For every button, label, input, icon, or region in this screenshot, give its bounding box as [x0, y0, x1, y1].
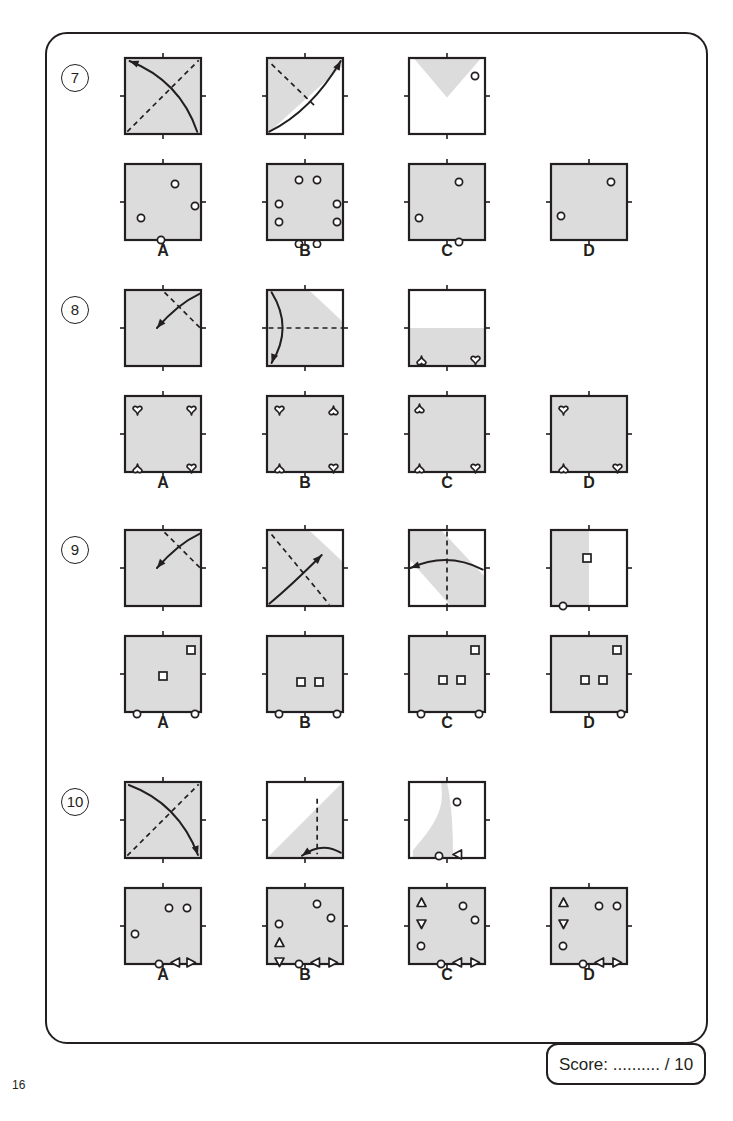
answer-label-9-B[interactable]: B — [259, 714, 351, 732]
answer-label-9-D[interactable]: D — [543, 714, 635, 732]
answer-diagram-10-C[interactable] — [401, 880, 493, 972]
answer-label-10-B[interactable]: B — [259, 966, 351, 984]
answer-label-9-C[interactable]: C — [401, 714, 493, 732]
answer-option-8-A[interactable] — [117, 388, 209, 484]
fold-prompt-10-A — [117, 774, 209, 870]
answer-option-9-C[interactable] — [401, 628, 493, 724]
answer-option-9-B[interactable] — [259, 628, 351, 724]
answer-label-8-B[interactable]: B — [259, 474, 351, 492]
fold-prompt-7-C — [401, 50, 493, 146]
fold-prompt-10-B — [259, 774, 351, 870]
answer-option-9-A[interactable] — [117, 628, 209, 724]
fold-diagram-8-A[interactable] — [117, 282, 209, 374]
fold-diagram-8-C[interactable] — [401, 282, 493, 374]
score-label: Score: — [559, 1055, 608, 1074]
fold-prompt-9-B — [259, 522, 351, 618]
answer-diagram-8-B[interactable] — [259, 388, 351, 480]
answer-diagram-8-A[interactable] — [117, 388, 209, 480]
answer-label-10-D[interactable]: D — [543, 966, 635, 984]
answer-option-10-D[interactable] — [543, 880, 635, 976]
fold-diagram-9-D[interactable] — [543, 522, 635, 614]
fold-diagram-7-C[interactable] — [401, 50, 493, 142]
fold-diagram-10-B[interactable] — [259, 774, 351, 866]
answer-diagram-7-D[interactable] — [543, 156, 635, 248]
answer-option-8-B[interactable] — [259, 388, 351, 484]
answer-diagram-7-B[interactable] — [259, 156, 351, 248]
fold-prompt-9-A — [117, 522, 209, 618]
answer-label-8-C[interactable]: C — [401, 474, 493, 492]
question-number-badge: 9 — [61, 536, 89, 564]
worksheet-page: 7ABCD8ABCD9ABCD10ABCD — [45, 32, 708, 1044]
answer-option-8-C[interactable] — [401, 388, 493, 484]
question-number-badge: 8 — [61, 296, 89, 324]
answer-label-9-A[interactable]: A — [117, 714, 209, 732]
fold-prompt-7-B — [259, 50, 351, 146]
answer-option-7-B[interactable] — [259, 156, 351, 252]
answer-label-10-A[interactable]: A — [117, 966, 209, 984]
fold-prompt-7-A — [117, 50, 209, 146]
score-total: / 10 — [665, 1055, 693, 1074]
answer-label-8-D[interactable]: D — [543, 474, 635, 492]
question-number-badge: 7 — [61, 64, 89, 92]
fold-diagram-9-B[interactable] — [259, 522, 351, 614]
page-number: 16 — [12, 1078, 25, 1092]
fold-diagram-7-A[interactable] — [117, 50, 209, 142]
fold-diagram-10-C[interactable] — [401, 774, 493, 866]
answer-option-8-D[interactable] — [543, 388, 635, 484]
answer-label-7-B[interactable]: B — [259, 242, 351, 260]
answer-diagram-9-C[interactable] — [401, 628, 493, 720]
fold-prompt-9-C — [401, 522, 493, 618]
answer-option-7-A[interactable] — [117, 156, 209, 252]
fold-prompt-8-B — [259, 282, 351, 378]
fold-diagram-9-A[interactable] — [117, 522, 209, 614]
question-number-badge: 10 — [61, 788, 89, 816]
fold-diagram-8-B[interactable] — [259, 282, 351, 374]
answer-option-7-C[interactable] — [401, 156, 493, 252]
answer-diagram-8-D[interactable] — [543, 388, 635, 480]
answer-diagram-10-D[interactable] — [543, 880, 635, 972]
fold-prompt-8-A — [117, 282, 209, 378]
answer-label-7-D[interactable]: D — [543, 242, 635, 260]
fold-prompt-9-D — [543, 522, 635, 618]
fold-diagram-7-B[interactable] — [259, 50, 351, 142]
answer-option-9-D[interactable] — [543, 628, 635, 724]
fold-diagram-10-A[interactable] — [117, 774, 209, 866]
score-blank: .......... — [613, 1055, 660, 1074]
answer-diagram-8-C[interactable] — [401, 388, 493, 480]
answer-diagram-9-B[interactable] — [259, 628, 351, 720]
answer-label-7-C[interactable]: C — [401, 242, 493, 260]
answer-label-8-A[interactable]: A — [117, 474, 209, 492]
answer-diagram-9-A[interactable] — [117, 628, 209, 720]
answer-option-7-D[interactable] — [543, 156, 635, 252]
answer-option-10-C[interactable] — [401, 880, 493, 976]
score-box[interactable]: Score: .......... / 10 — [546, 1043, 706, 1085]
fold-prompt-8-C — [401, 282, 493, 378]
answer-option-10-A[interactable] — [117, 880, 209, 976]
fold-prompt-10-C — [401, 774, 493, 870]
answer-diagram-10-B[interactable] — [259, 880, 351, 972]
fold-diagram-9-C[interactable] — [401, 522, 493, 614]
answer-diagram-10-A[interactable] — [117, 880, 209, 972]
answer-option-10-B[interactable] — [259, 880, 351, 976]
answer-diagram-7-A[interactable] — [117, 156, 209, 248]
answer-label-7-A[interactable]: A — [117, 242, 209, 260]
answer-diagram-9-D[interactable] — [543, 628, 635, 720]
answer-diagram-7-C[interactable] — [401, 156, 493, 248]
answer-label-10-C[interactable]: C — [401, 966, 493, 984]
